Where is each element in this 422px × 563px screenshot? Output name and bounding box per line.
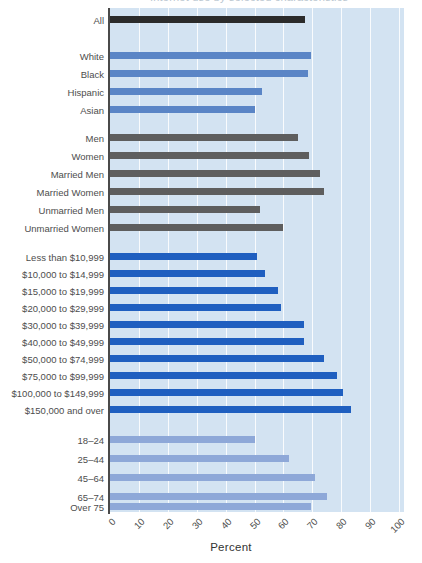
bar xyxy=(110,321,304,328)
category-label: Unmarried Women xyxy=(0,223,104,234)
gridline-50 xyxy=(255,8,256,512)
bar xyxy=(110,70,308,77)
bar xyxy=(110,206,260,213)
bar xyxy=(110,88,262,95)
gridline-80 xyxy=(341,8,342,512)
category-label: White xyxy=(0,51,104,62)
bar xyxy=(110,52,311,59)
gridline-90 xyxy=(370,8,371,512)
chart-title: Internet use by selected characteristics xyxy=(150,0,348,3)
category-label: $30,000 to $39,999 xyxy=(0,320,104,331)
bar xyxy=(110,436,255,443)
category-label: $150,000 and over xyxy=(0,405,104,416)
bar-chart: Internet use by selected characteristics… xyxy=(0,0,422,563)
bar xyxy=(110,106,255,113)
bar xyxy=(110,338,304,345)
gridline-100 xyxy=(399,8,400,512)
category-label: Men xyxy=(0,133,104,144)
bar xyxy=(110,253,257,260)
category-label: Hispanic xyxy=(0,87,104,98)
bar xyxy=(110,170,320,177)
category-label: $40,000 to $49,999 xyxy=(0,337,104,348)
category-label: 45–64 xyxy=(0,473,104,484)
category-label: 25–44 xyxy=(0,454,104,465)
bar xyxy=(110,16,305,23)
category-label: $100,000 to $149,999 xyxy=(0,388,104,399)
bar xyxy=(110,270,265,277)
bar xyxy=(110,493,327,500)
category-label: All xyxy=(0,15,104,26)
bar xyxy=(110,389,343,396)
bar xyxy=(110,503,311,510)
bar xyxy=(110,287,278,294)
bar xyxy=(110,406,351,413)
bar xyxy=(110,152,309,159)
category-label: Women xyxy=(0,151,104,162)
category-label: Married Women xyxy=(0,187,104,198)
bar xyxy=(110,474,315,481)
bar xyxy=(110,188,324,195)
category-label: Over 75 xyxy=(0,502,104,513)
bar xyxy=(110,134,298,141)
gridline-70 xyxy=(312,8,313,512)
bar xyxy=(110,224,283,231)
category-label: Unmarried Men xyxy=(0,205,104,216)
category-label: $15,000 to $19,999 xyxy=(0,286,104,297)
category-label: 18–24 xyxy=(0,435,104,446)
bar xyxy=(110,304,281,311)
gridline-60 xyxy=(283,8,284,512)
category-label: $50,000 to $74,999 xyxy=(0,354,104,365)
chart-title-cropped: Internet use by selected characteristics xyxy=(0,0,422,7)
x-axis-title: Percent xyxy=(0,541,422,553)
category-label: Married Men xyxy=(0,169,104,180)
bar xyxy=(110,372,337,379)
category-label: Asian xyxy=(0,105,104,116)
bar xyxy=(110,455,289,462)
bar xyxy=(110,355,324,362)
category-label: $20,000 to $29,999 xyxy=(0,303,104,314)
category-label: Less than $10,999 xyxy=(0,252,104,263)
category-label: $75,000 to $99,999 xyxy=(0,371,104,382)
category-label: Black xyxy=(0,69,104,80)
category-label: $10,000 to $14,999 xyxy=(0,269,104,280)
